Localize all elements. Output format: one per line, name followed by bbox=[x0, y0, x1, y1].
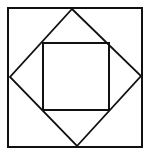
inner-square bbox=[43, 43, 109, 110]
nested-squares-diagram bbox=[0, 0, 148, 154]
diamond-square bbox=[10, 9, 141, 146]
outer-square bbox=[8, 8, 142, 147]
